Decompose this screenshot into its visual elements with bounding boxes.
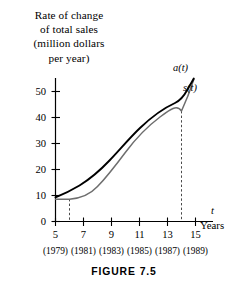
- curve-label-a-t: a(t): [173, 62, 188, 73]
- y-tick-label-30: 30: [22, 138, 46, 149]
- x-axis-variable-label: t: [211, 205, 214, 216]
- figure-caption: FIGURE 7.5: [0, 266, 248, 277]
- y-tick-label-50: 50: [22, 86, 46, 97]
- x-tick-label-5: 5: [46, 229, 66, 240]
- x-axis-label: Years: [200, 219, 224, 231]
- x-tick-label-9: 9: [102, 229, 122, 240]
- curve-a-t: [56, 79, 194, 198]
- x-tick-label-7: 7: [74, 229, 94, 240]
- y-tick-label-40: 40: [22, 112, 46, 123]
- figure-7-5: Rate of change of total sales (million d…: [0, 0, 248, 286]
- x-tick-label-11: 11: [130, 229, 150, 240]
- y-tick-label-10: 10: [22, 190, 46, 201]
- y-tick-label-20: 20: [22, 164, 46, 175]
- x-year-label-1989: (1989): [179, 246, 213, 256]
- curve-s-t: [56, 80, 194, 200]
- x-tick-label-13: 13: [158, 229, 178, 240]
- y-tick-label-0: 0: [22, 216, 46, 227]
- curve-label-s-t: s(t): [183, 82, 197, 93]
